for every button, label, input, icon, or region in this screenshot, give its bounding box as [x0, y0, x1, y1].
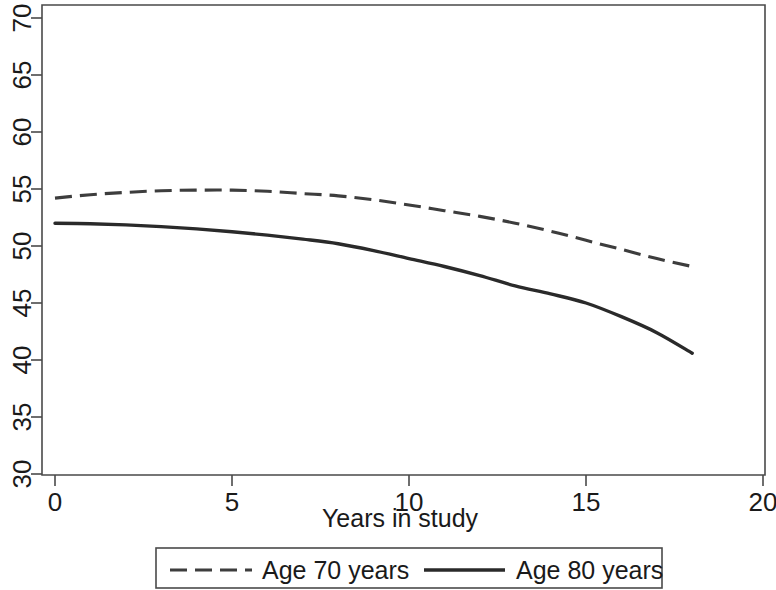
y-tick-label: 60 [7, 118, 37, 147]
y-tick-label: 45 [7, 289, 37, 318]
y-axis-ticks: 303540455055606570 [7, 4, 42, 489]
chart-legend: Age 70 years Age 80 years [156, 548, 663, 588]
x-axis-title: Years in study [322, 504, 479, 532]
x-tick-label: 15 [572, 487, 601, 517]
y-tick-label: 70 [7, 4, 37, 33]
y-tick-label: 35 [7, 403, 37, 432]
y-tick-label: 40 [7, 346, 37, 375]
y-tick-label: 30 [7, 460, 37, 489]
y-tick-label: 50 [7, 232, 37, 261]
x-tick-label: 20 [749, 487, 776, 517]
line-chart: 303540455055606570 05101520 Years in stu… [0, 0, 776, 590]
series-line-age-70 [55, 190, 692, 266]
x-tick-label: 0 [48, 487, 62, 517]
y-tick-label: 55 [7, 175, 37, 204]
series-line-age-80 [55, 223, 692, 353]
x-tick-label: 5 [225, 487, 239, 517]
chart-figure: 303540455055606570 05101520 Years in stu… [0, 0, 776, 590]
legend-label-age-70: Age 70 years [262, 556, 409, 584]
y-tick-label: 65 [7, 61, 37, 90]
series-group [55, 190, 692, 353]
legend-label-age-80: Age 80 years [516, 556, 663, 584]
plot-frame [42, 5, 765, 475]
